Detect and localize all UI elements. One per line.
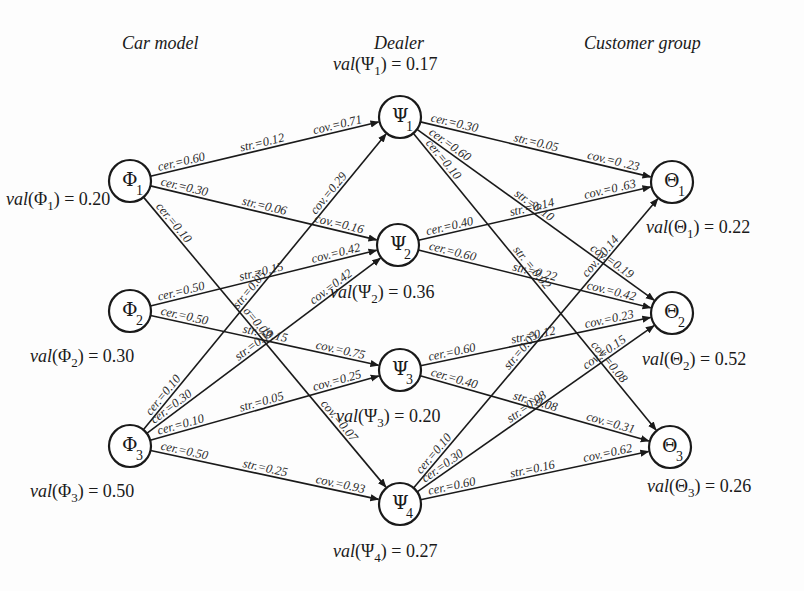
node-subscript: 2: [678, 315, 685, 330]
edge-label-cer: cer.=0.30: [159, 174, 210, 199]
edge-label-cov: cov.=0.29: [307, 169, 350, 217]
node-subscript: 4: [406, 506, 413, 521]
edge-label-str: str.=0.06: [241, 194, 289, 218]
val-number: 0.27: [406, 541, 438, 561]
val-number: 0.36: [403, 282, 435, 302]
val-number: 0.17: [406, 54, 438, 74]
val-fn: val: [333, 541, 355, 561]
edges: [143, 122, 657, 500]
edge-label-cov: cov.=0.62: [582, 441, 634, 465]
node-subscript: 3: [406, 372, 413, 387]
edge-label-cov: cov.=0.25: [311, 367, 363, 394]
node-psi3: Ψ3: [379, 349, 421, 391]
edge-label-cer: cer.=0.50: [160, 439, 211, 463]
edge-label-cer: cer.=0.60: [156, 149, 207, 174]
val-number: 0.30: [103, 346, 135, 366]
edge-label-cov: cov.=0.93: [315, 472, 367, 496]
val-fn: val: [6, 189, 28, 209]
val-fn: val: [336, 406, 358, 426]
node-value-psi4: val(Ψ4) = 0.27: [333, 541, 437, 565]
val-number: 0.20: [79, 189, 111, 209]
edge-label-cov: cov.=0.31: [585, 409, 637, 436]
flow-graph-canvas: Car model Dealer Customer group cer.=0.6…: [0, 0, 804, 591]
edge-label-cov: cov.=0 .63: [582, 176, 637, 202]
node-value-phi2: val(Φ2) = 0.30: [30, 346, 134, 370]
node-psi1: Ψ1: [379, 96, 421, 138]
edge-label-str: str.=0.25: [242, 456, 289, 479]
edge-label-cer: cer.=0.50: [156, 278, 207, 303]
edge-label-cov: cov.=0.16: [313, 211, 365, 236]
node-subscript: 3: [136, 448, 143, 463]
edge-label-str: str.=0.05: [512, 130, 559, 154]
node-subscript: 1: [406, 119, 413, 134]
edge-label-cer: cer.=0.40: [425, 214, 476, 239]
node-value-theta1: val(Θ1) = 0.22: [646, 217, 750, 241]
edge-label-cer: cer.=0.60: [427, 340, 478, 364]
edge-label-cer: cer.=0.40: [429, 365, 480, 392]
node-subscript: 2: [136, 313, 143, 328]
node-psi4: Ψ4: [379, 483, 421, 525]
node-value-psi1: val(Ψ1) = 0.17: [333, 54, 437, 78]
edge-label-cer: cer.=0.50: [160, 304, 211, 328]
val-fn: val: [330, 282, 352, 302]
edge-label-cov: cov.=0.75: [315, 338, 367, 362]
val-fn: val: [30, 481, 52, 501]
val-fn: val: [333, 54, 355, 74]
edge-label-cov: cov.=0 .23: [586, 148, 641, 174]
val-fn: val: [642, 349, 664, 369]
node-phi2: Φ2: [109, 290, 151, 332]
node-value-phi1: val(Φ1) = 0.20: [6, 189, 110, 213]
val-number: 0.26: [720, 476, 752, 496]
header-customer-group: Customer group: [584, 33, 701, 53]
edge-label-cer: cer.=0.10: [153, 200, 195, 246]
header-car-model: Car model: [122, 33, 199, 53]
flow-graph-diagram: Car model Dealer Customer group cer.=0.6…: [0, 0, 804, 591]
edge-label-cer: cer.=0.60: [428, 239, 479, 264]
node-phi1: Φ1: [109, 160, 151, 202]
val-number: 0.22: [719, 217, 751, 237]
node-value-theta3: val(Θ3) = 0.26: [647, 476, 751, 500]
node-theta3: Θ3: [649, 426, 691, 468]
edge-labels: cer.=0.60str.=0.12cov.=0.71cer.=0.30str.…: [142, 110, 641, 497]
node-subscript: 1: [678, 184, 685, 199]
node-psi2: Ψ2: [377, 224, 419, 266]
node-subscript: 1: [136, 183, 143, 198]
node-subscript: 3: [676, 449, 683, 464]
val-fn: val: [646, 217, 668, 237]
header-dealer: Dealer: [373, 33, 425, 53]
node-value-psi2: val(Ψ2) = 0.36: [330, 282, 434, 306]
edge-label-cov: cov.=0.23: [583, 307, 635, 331]
layer-headers: Car model Dealer Customer group: [122, 33, 701, 53]
edge-label-str: str.=0.05: [238, 389, 285, 415]
val-number: 0.52: [715, 349, 747, 369]
node-theta1: Θ1: [651, 161, 693, 203]
val-number: 0.50: [103, 481, 135, 501]
edge-label-cov: cov.=0.42: [310, 240, 362, 266]
edge-label-str: str.=0.12: [238, 130, 285, 154]
edge-label-cov: cov.=0.71: [311, 112, 363, 137]
node-value-theta2: val(Θ2) = 0.52: [642, 349, 746, 373]
edge-label-str: str.=0.16: [509, 457, 557, 480]
val-fn: val: [647, 476, 669, 496]
val-fn: val: [30, 346, 52, 366]
node-theta2: Θ2: [651, 292, 693, 334]
node-subscript: 2: [404, 247, 411, 262]
node-phi3: Φ3: [109, 425, 151, 467]
val-number: 0.20: [409, 406, 441, 426]
node-value-phi3: val(Φ3) = 0.50: [30, 481, 134, 505]
